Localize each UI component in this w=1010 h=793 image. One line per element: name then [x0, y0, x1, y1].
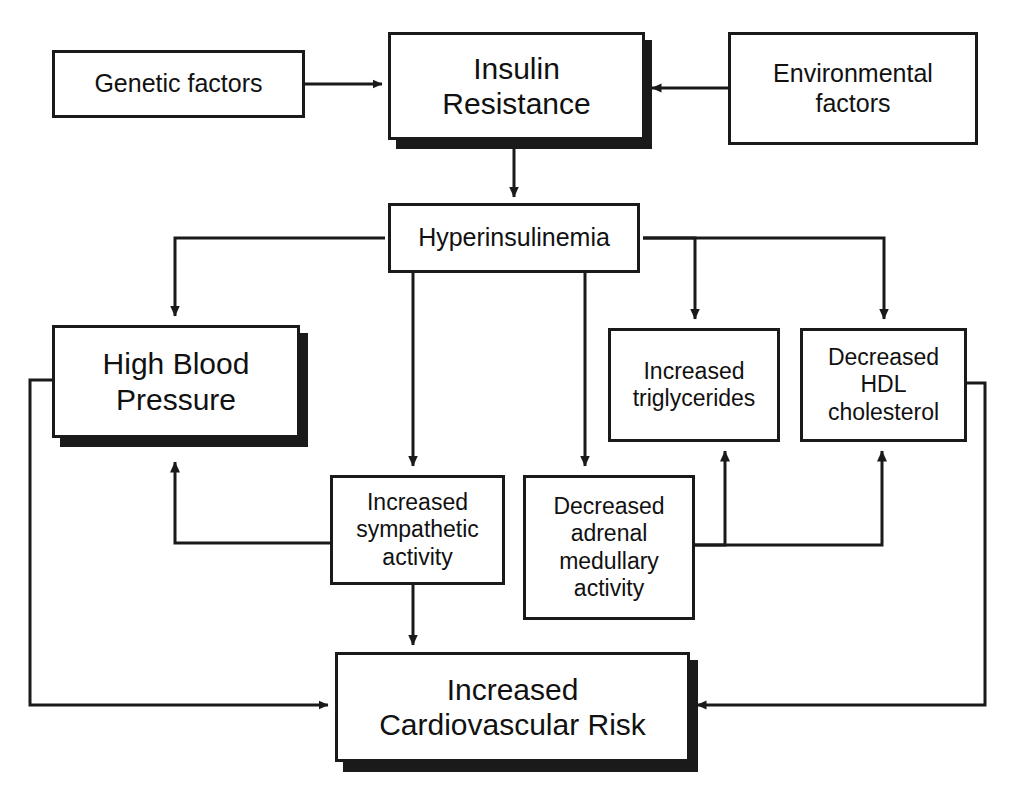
edge-sympathetic-to-high-blood-pressure: [175, 462, 330, 543]
edge-hyperinsulinemia-to-high-blood-pressure: [175, 238, 385, 316]
node-label-increased-sympathetic-activity: Increased sympathetic activity: [350, 489, 485, 570]
node-label-hyperinsulinemia: Hyperinsulinemia: [412, 223, 616, 253]
flowchart-canvas: Genetic factors Insulin Resistance Envir…: [0, 0, 1010, 793]
node-increased-triglycerides[interactable]: Increased triglycerides: [608, 328, 780, 442]
shadow-high-blood-pressure-side: [299, 333, 308, 447]
node-label-decreased-hdl-cholesterol: Decreased HDL cholesterol: [822, 344, 945, 425]
shadow-increased-cardiovascular-risk: [343, 762, 698, 772]
node-decreased-adrenal-medullary-activity[interactable]: Decreased adrenal medullary activity: [523, 475, 695, 620]
node-label-increased-triglycerides: Increased triglycerides: [627, 358, 762, 412]
node-hyperinsulinemia[interactable]: Hyperinsulinemia: [388, 203, 640, 273]
edge-hyperinsulinemia-to-hdl: [643, 238, 884, 319]
node-label-decreased-adrenal-medullary-activity: Decreased adrenal medullary activity: [547, 493, 670, 602]
edge-hyperinsulinemia-to-triglycerides: [643, 238, 695, 319]
node-label-high-blood-pressure: High Blood Pressure: [97, 346, 256, 417]
node-genetic-factors[interactable]: Genetic factors: [52, 50, 305, 118]
node-label-increased-cardiovascular-risk: Increased Cardiovascular Risk: [373, 672, 652, 743]
edge-adrenal-to-hdl: [695, 451, 882, 545]
node-high-blood-pressure[interactable]: High Blood Pressure: [52, 325, 300, 438]
node-increased-sympathetic-activity[interactable]: Increased sympathetic activity: [330, 475, 505, 585]
node-insulin-resistance[interactable]: Insulin Resistance: [388, 32, 645, 140]
node-environmental-factors[interactable]: Environmental factors: [728, 32, 978, 145]
node-label-environmental-factors: Environmental factors: [767, 59, 939, 118]
node-label-insulin-resistance: Insulin Resistance: [436, 51, 596, 122]
shadow-insulin-resistance: [396, 140, 652, 149]
node-label-genetic-factors: Genetic factors: [88, 69, 268, 99]
shadow-high-blood-pressure: [60, 438, 308, 447]
node-increased-cardiovascular-risk[interactable]: Increased Cardiovascular Risk: [335, 652, 690, 762]
edge-adrenal-to-triglycerides: [695, 451, 725, 545]
node-decreased-hdl-cholesterol[interactable]: Decreased HDL cholesterol: [800, 328, 967, 442]
